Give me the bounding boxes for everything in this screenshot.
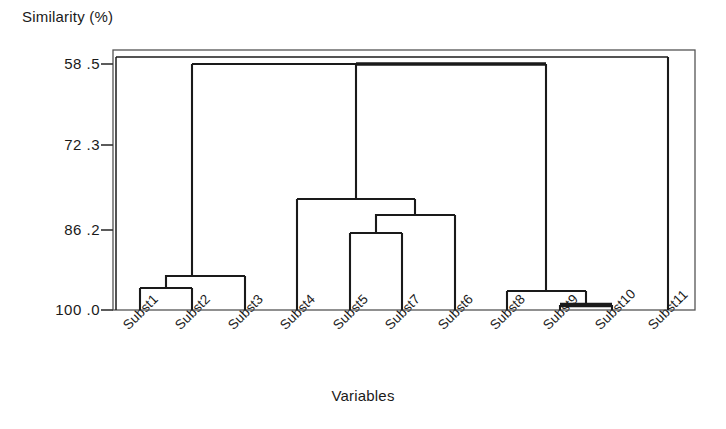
frame-rect	[113, 50, 695, 310]
merge-link-m4	[376, 215, 455, 233]
merge-link-m2	[166, 276, 245, 288]
dendrogram-chart: Similarity (%) Variables 58 .5 72 .3 86 …	[0, 0, 726, 429]
dendrogram-links	[116, 57, 668, 310]
y-axis-ticks	[101, 64, 113, 310]
plot-frame	[113, 50, 695, 310]
dendrogram-svg	[0, 0, 726, 429]
